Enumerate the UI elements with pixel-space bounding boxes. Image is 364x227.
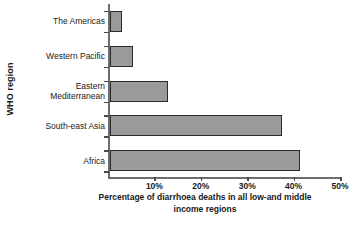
bar	[110, 81, 168, 102]
y-axis-tick	[104, 32, 109, 34]
category-label-line: South-east Asia	[17, 121, 105, 131]
y-axis-title: WHO region	[0, 0, 18, 178]
x-axis-tick-label: 10%	[137, 181, 171, 191]
category-label-line: Western Pacific	[17, 51, 105, 61]
x-axis-tick-label: 50%	[323, 181, 357, 191]
category-label-line: Eastern	[17, 81, 105, 91]
y-axis-tick	[104, 115, 109, 117]
bar	[110, 150, 300, 171]
category-label: Western Pacific	[17, 51, 105, 61]
bar	[110, 11, 122, 32]
y-axis-tick	[104, 46, 109, 48]
y-axis-tick	[104, 67, 109, 69]
category-label: EasternMediterranean	[17, 81, 105, 101]
x-axis-title: Percentage of diarrhoea deaths in all lo…	[60, 192, 350, 215]
plot-area	[108, 4, 340, 178]
category-label: Africa	[17, 156, 105, 166]
x-axis-title-line: Percentage of diarrhoea deaths in all lo…	[60, 192, 350, 204]
category-label: South-east Asia	[17, 121, 105, 131]
bar	[110, 115, 282, 136]
x-axis-tick-label: 40%	[277, 181, 311, 191]
bar	[110, 46, 133, 67]
y-axis-title-label: WHO region	[4, 63, 14, 116]
bar-chart: WHO region The AmericasWestern PacificEa…	[0, 0, 364, 227]
y-axis-tick	[104, 136, 109, 138]
category-label: The Americas	[17, 16, 105, 26]
category-axis-labels: The AmericasWestern PacificEasternMedite…	[18, 0, 108, 178]
category-label-line: Africa	[17, 156, 105, 166]
y-axis-tick	[104, 81, 109, 83]
x-axis-title-line: income regions	[60, 204, 350, 216]
y-axis-tick	[104, 11, 109, 13]
x-axis-tick-label: 30%	[230, 181, 264, 191]
category-label-line: Mediterranean	[17, 91, 105, 101]
y-axis-tick	[104, 150, 109, 152]
x-axis-tick-label: 20%	[184, 181, 218, 191]
y-axis-tick	[104, 171, 109, 173]
category-label-line: The Americas	[17, 16, 105, 26]
y-axis-tick	[104, 102, 109, 104]
